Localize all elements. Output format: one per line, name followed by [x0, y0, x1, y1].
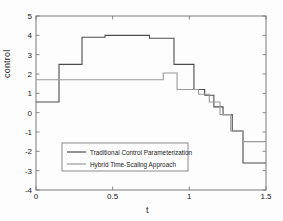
y-tick-label: 2: [28, 70, 33, 79]
y-tick-label: 3: [28, 51, 33, 60]
figure-container: control t -4-3-2-101234500.511.5Traditio…: [0, 0, 283, 221]
chart-plot: -4-3-2-101234500.511.5Traditional Contro…: [0, 0, 283, 221]
series-line-1: [36, 73, 266, 142]
y-tick-label: -1: [25, 128, 33, 137]
y-tick-label: 0: [28, 109, 33, 118]
x-tick-label: 1.5: [260, 192, 272, 201]
y-tick-label: 4: [28, 31, 33, 40]
y-tick-label: 5: [28, 12, 33, 21]
y-tick-label: -3: [25, 167, 33, 176]
y-tick-label: -2: [25, 147, 33, 156]
x-tick-label: 1: [187, 192, 192, 201]
y-tick-label: -4: [25, 186, 33, 195]
x-tick-label: 0.5: [107, 192, 119, 201]
y-tick-label: 1: [28, 89, 33, 98]
legend-label-0: Traditional Control Parameterization: [90, 149, 193, 156]
legend-label-1: Hybrid Time-Scaling Approach: [90, 161, 176, 169]
x-tick-label: 0: [34, 192, 39, 201]
